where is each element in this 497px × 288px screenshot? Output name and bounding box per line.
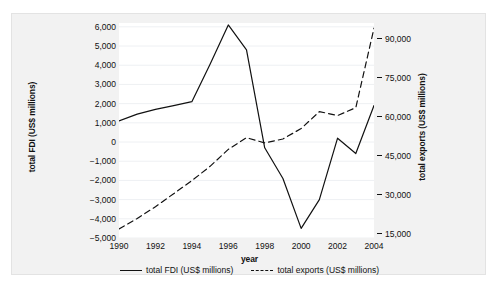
- y-tick-right: 30,000: [377, 190, 411, 200]
- y-tick-left: 6,000: [95, 22, 116, 32]
- y-tick-right: 60,000: [377, 112, 411, 122]
- x-tick: 1994: [182, 241, 201, 251]
- legend-swatch-solid: [120, 267, 142, 273]
- x-tick: 1996: [219, 241, 238, 251]
- chart-svg: [119, 23, 374, 238]
- y-tick-right: 75,000: [377, 73, 411, 83]
- y-tick-left: 1,000: [95, 118, 116, 128]
- plot-area: [119, 23, 374, 238]
- legend-label: total exports (US$ millions): [277, 265, 379, 275]
- legend-swatch-dashed: [251, 267, 273, 273]
- series-line-1: [119, 28, 374, 229]
- x-tick: 1990: [110, 241, 129, 251]
- x-tick: 2002: [328, 241, 347, 251]
- y-tick-left: 2,000: [95, 99, 116, 109]
- legend-item: total FDI (US$ millions): [120, 264, 233, 275]
- y-tick-left: −2,000: [90, 175, 116, 185]
- chart-legend: total FDI (US$ millions)total exports (U…: [12, 264, 487, 275]
- y-tick-left: 4,000: [95, 60, 116, 70]
- gridlines: [119, 27, 374, 238]
- plot-wrapper: 6,0005,0004,0003,0002,0001,0000−1,000−2,…: [119, 23, 374, 238]
- x-tick: 2004: [365, 241, 384, 251]
- x-tick: 1998: [255, 241, 274, 251]
- y-tick-left: 5,000: [95, 41, 116, 51]
- y-tick-right: 90,000: [377, 34, 411, 44]
- y-tick-left: −3,000: [90, 195, 116, 205]
- series-lines: [119, 25, 374, 229]
- y-tick-left: 0: [111, 137, 116, 147]
- y-tick-right: 15,000: [377, 229, 411, 239]
- chart-figure: total FDI (US$ millions) total exports (…: [11, 13, 486, 275]
- y-tick-left: −4,000: [90, 214, 116, 224]
- legend-item: total exports (US$ millions): [251, 264, 379, 275]
- legend-label: total FDI (US$ millions): [146, 265, 233, 275]
- y-tick-left: 3,000: [95, 79, 116, 89]
- x-axis-title: year: [12, 254, 487, 264]
- y-tick-right: 45,000: [377, 151, 411, 161]
- y-axis-left-title: total FDI (US$ millions): [27, 67, 37, 187]
- y-axis-right-title: total exports (US$ millions): [417, 67, 427, 187]
- y-tick-left: −1,000: [90, 156, 116, 166]
- series-line-0: [119, 25, 374, 228]
- x-tick: 1992: [146, 241, 165, 251]
- x-tick: 2000: [292, 241, 311, 251]
